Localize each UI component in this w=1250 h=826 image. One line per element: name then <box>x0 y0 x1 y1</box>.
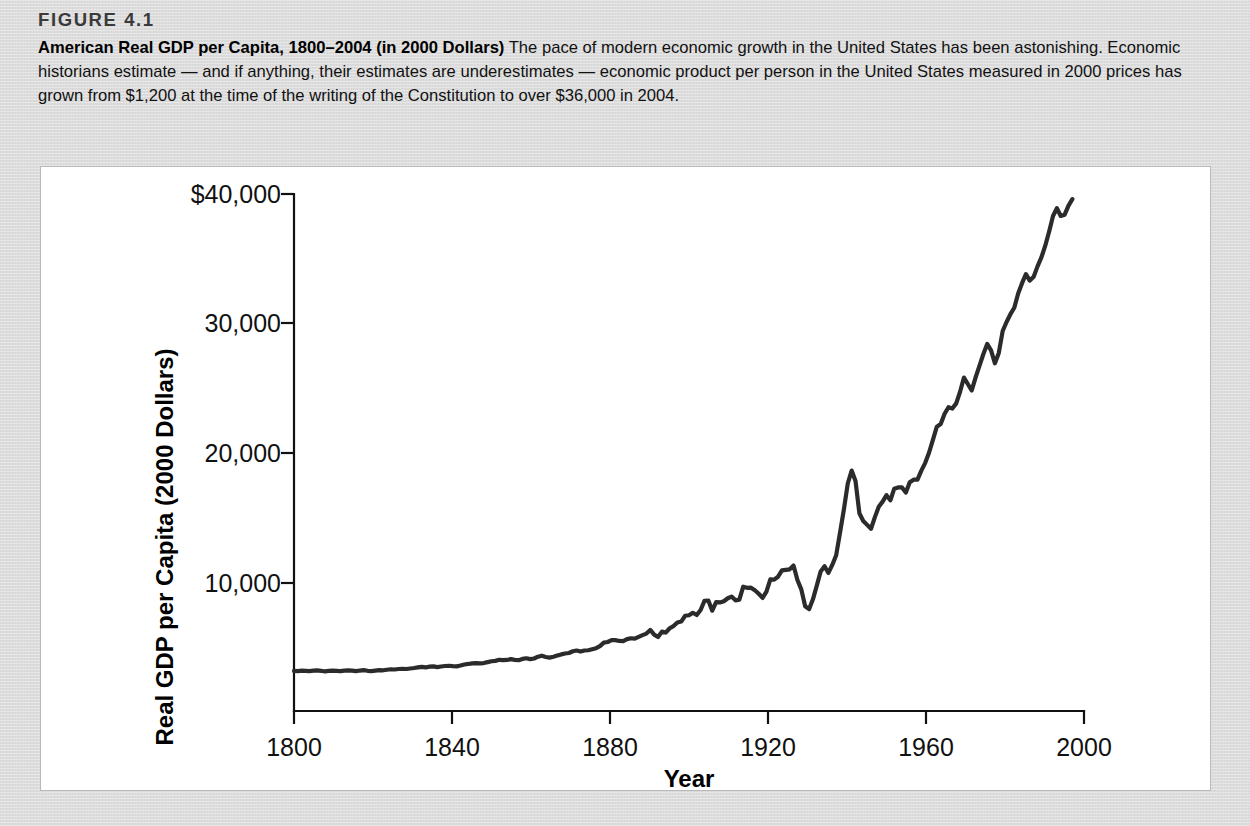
x-tick-label-1800: 1800 <box>266 733 322 761</box>
gdp-series-line <box>294 199 1072 671</box>
x-tick-labels: 1800 1840 1880 1920 1960 2000 <box>266 733 1112 761</box>
figure-caption-block: FIGURE 4.1 American Real GDP per Capita,… <box>38 8 1213 108</box>
figure-container: FIGURE 4.1 American Real GDP per Capita,… <box>0 0 1250 826</box>
x-tick-label-2000: 2000 <box>1056 733 1112 761</box>
x-tick-label-1880: 1880 <box>582 733 638 761</box>
x-tick-label-1920: 1920 <box>740 733 796 761</box>
x-tick-label-1960: 1960 <box>898 733 954 761</box>
y-tick-label-20000: 20,000 <box>205 439 281 467</box>
y-tick-marks <box>281 194 294 583</box>
figure-number-label: FIGURE 4.1 <box>38 8 1213 31</box>
x-tick-label-1840: 1840 <box>424 733 480 761</box>
chart-panel: Real GDP per Capita (2000 Dollars) $40,0… <box>40 166 1211 791</box>
gdp-line-chart: Real GDP per Capita (2000 Dollars) $40,0… <box>41 167 1212 792</box>
figure-caption: American Real GDP per Capita, 1800–2004 … <box>38 36 1213 108</box>
y-tick-labels: $40,000 30,000 20,000 10,000 <box>191 180 281 597</box>
caption-headline: American Real GDP per Capita, 1800–2004 … <box>38 38 504 57</box>
y-tick-label-10000: 10,000 <box>205 569 281 597</box>
y-tick-label-40000: $40,000 <box>191 180 281 208</box>
y-tick-label-30000: 30,000 <box>205 309 281 337</box>
y-axis-title: Real GDP per Capita (2000 Dollars) <box>151 348 178 745</box>
x-tick-marks <box>294 711 1084 724</box>
x-axis-title: Year <box>664 765 715 792</box>
